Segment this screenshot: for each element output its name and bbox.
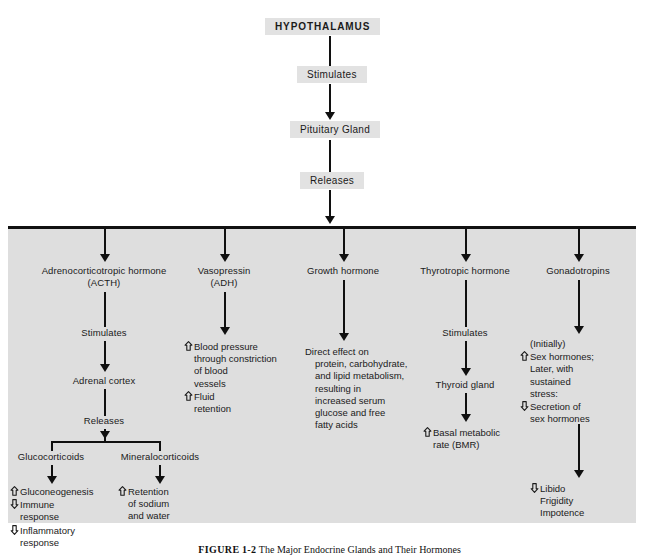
- node-adrenal-cortex: Adrenal cortex: [54, 375, 154, 387]
- figure-caption-text: The Major Endocrine Glands and Their Hor…: [259, 544, 461, 555]
- node-mineralocorticoids: Mineralocorticoids: [110, 451, 210, 463]
- node-thyroid-gland: Thyroid gland: [420, 379, 510, 391]
- adh-hormone-abbrev: (ADH): [211, 277, 238, 288]
- node-glucocorticoids: Glucocorticoids: [11, 451, 91, 463]
- distribution-arrow-adh: [220, 254, 230, 262]
- effect-line: Gluconeogenesis: [10, 485, 93, 498]
- tsh-line-3: [465, 393, 467, 416]
- node-acth-action2: Releases: [69, 415, 139, 427]
- trunk-line-1: [329, 36, 331, 66]
- gonad-arrow-2: [574, 470, 584, 478]
- effect-text: Basal metabolic: [433, 427, 500, 438]
- effect-line: Libido: [530, 482, 584, 495]
- acth-line-1: [104, 292, 106, 327]
- effect-line: glucose and free: [305, 407, 407, 419]
- effect-text: Gluconeogenesis: [20, 486, 93, 497]
- effect-text: through constriction: [194, 353, 277, 364]
- gonad-line-1: [578, 280, 580, 328]
- effect-text: increased serum: [315, 395, 385, 406]
- effects-gonadotropins: (Initially)Sex hormones;Later, withsusta…: [520, 338, 594, 425]
- effect-text: resulting in: [315, 383, 361, 394]
- effect-text: Sex hormones;: [530, 351, 594, 362]
- effect-text: Fluid: [194, 391, 215, 402]
- distribution-drop-acth: [104, 228, 106, 256]
- decrease-arrow-icon: [520, 401, 529, 411]
- tsh-line-2: [465, 341, 467, 370]
- effect-line: through constriction: [184, 353, 277, 365]
- acth-line-2: [104, 341, 106, 366]
- corticoid-split-bar: [51, 441, 161, 443]
- acth-arrow-1: [100, 364, 110, 372]
- effect-line: Inflammatory: [10, 524, 93, 537]
- effect-text: fatty acids: [315, 419, 358, 430]
- distribution-arrow-gonad: [574, 254, 584, 262]
- effect-text: vessels: [194, 378, 226, 389]
- effect-line: Sex hormones;: [520, 350, 594, 363]
- increase-arrow-icon: [118, 486, 127, 496]
- effect-line: resulting in: [305, 383, 407, 395]
- node-tsh-hormone: Thyrotropic hormone: [405, 265, 525, 277]
- acth-arrow-2: [100, 431, 110, 439]
- effect-text: Retention: [128, 486, 169, 497]
- effect-line: response: [10, 511, 93, 523]
- effect-line: rate (BMR): [423, 439, 500, 451]
- effect-text: sex hormones: [530, 413, 590, 424]
- node-gonadotropins-hormone: Gonadotropins: [528, 265, 628, 277]
- effect-text: Blood pressure: [194, 341, 258, 352]
- effect-line: retention: [184, 403, 277, 415]
- node-acth-action: Stimulates: [64, 327, 144, 339]
- effect-line: sex hormones: [520, 413, 594, 425]
- tsh-line-1: [465, 280, 467, 327]
- effect-line: Later, with: [520, 363, 594, 375]
- adh-line-1: [224, 292, 226, 330]
- effect-line: Frigidity: [530, 495, 584, 507]
- distribution-drop-adh: [224, 228, 226, 256]
- effect-text: Inflammatory: [20, 525, 75, 536]
- trunk-step-releases: Releases: [300, 172, 364, 189]
- effect-text: glucose and free: [315, 407, 385, 418]
- trunk-line-4: [329, 190, 331, 218]
- effect-line: vessels: [184, 378, 277, 390]
- node-acth-hormone: Adrenocorticotropic hormone (ACTH): [14, 265, 194, 288]
- distribution-arrow-acth: [100, 254, 110, 262]
- distribution-drop-tsh: [465, 228, 467, 256]
- effect-line: and lipid metabolism,: [305, 370, 407, 382]
- gonad-arrow-1: [574, 326, 584, 334]
- glucocorticoids-arrow: [47, 476, 57, 484]
- pituitary-gland-box: Pituitary Gland: [290, 121, 380, 138]
- effect-line: Blood pressure: [184, 340, 277, 353]
- gh-arrow-1: [339, 333, 349, 341]
- trunk-line-3: [329, 140, 331, 173]
- effect-line: Immune: [10, 498, 93, 511]
- tsh-arrow-2: [461, 414, 471, 422]
- decrease-arrow-icon: [10, 525, 19, 535]
- effect-line: Secretion of: [520, 400, 594, 413]
- tsh-arrow-1: [461, 368, 471, 376]
- effect-line: sustained: [520, 376, 594, 388]
- figure-caption-label: FIGURE: [198, 544, 239, 555]
- effect-text: protein, carbohydrate,: [315, 358, 407, 369]
- node-adh-hormone: Vasopressin (ADH): [174, 265, 274, 288]
- effect-text: Direct effect on: [305, 346, 369, 357]
- effect-text: Impotence: [540, 507, 584, 518]
- effect-line: Impotence: [530, 507, 584, 519]
- effect-text: rate (BMR): [433, 439, 479, 450]
- increase-arrow-icon: [184, 391, 193, 401]
- hypothalamus-title-box: HYPOTHALAMUS: [265, 18, 380, 35]
- distribution-arrow-tsh: [461, 254, 471, 262]
- trunk-step-stimulates: Stimulates: [297, 66, 367, 83]
- effect-text: Immune: [20, 499, 54, 510]
- effect-text: response: [20, 511, 59, 522]
- trunk-arrow-2: [325, 216, 335, 224]
- effect-line: Direct effect on: [305, 346, 407, 358]
- effects-libido: LibidoFrigidityImpotence: [530, 482, 584, 520]
- corticoid-split-left: [51, 441, 53, 451]
- gh-line-1: [343, 280, 345, 335]
- effect-line: stress:: [520, 388, 594, 400]
- distribution-drop-gh: [343, 228, 345, 256]
- effect-text: (Initially): [530, 338, 565, 349]
- adh-arrow-1: [220, 327, 230, 335]
- increase-arrow-icon: [423, 427, 432, 437]
- effect-line: Fluid: [184, 390, 277, 403]
- effect-text: sustained: [530, 376, 571, 387]
